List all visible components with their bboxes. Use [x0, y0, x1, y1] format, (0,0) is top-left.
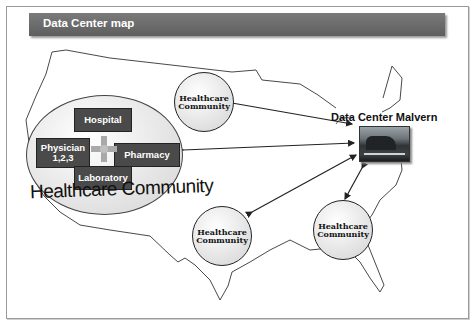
- node-pharmacy-label: Pharmacy: [124, 150, 169, 160]
- node-pharmacy: Pharmacy: [114, 143, 180, 167]
- satellite-label-line2: Community: [196, 236, 248, 244]
- satellite-label-line2: Community: [317, 230, 369, 238]
- data-center-photo-icon: [359, 126, 410, 162]
- node-physician: Physician 1,2,3: [36, 138, 90, 168]
- satellite-community-south: Healthcare Community: [192, 206, 252, 266]
- node-hospital: Hospital: [74, 108, 132, 132]
- four-way-arrow-icon: [89, 134, 119, 164]
- satellite-community-north: Healthcare Community: [174, 72, 234, 132]
- node-hospital-label: Hospital: [84, 115, 121, 125]
- satellite-community-southeast: Healthcare Community: [313, 200, 373, 260]
- node-physician-number: 1,2,3: [52, 153, 73, 163]
- data-center-label: Data Center Malvern: [331, 111, 437, 123]
- satellite-label-line2: Community: [178, 102, 230, 110]
